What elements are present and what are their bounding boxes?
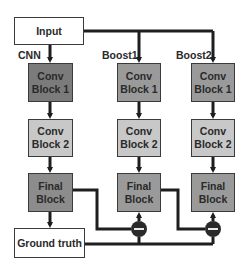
block-line2: Block <box>125 193 154 206</box>
cnn-column-label: CNN <box>18 49 41 61</box>
boost2-final-block: Final Block <box>191 173 235 212</box>
cnn-conv-block-2: Conv Block 2 <box>28 119 73 157</box>
boost2-conv-block-2: Conv Block 2 <box>191 119 235 157</box>
block-line1: Final <box>36 180 65 193</box>
block-line2: Block 1 <box>194 83 231 96</box>
block-line2: Block <box>36 193 65 206</box>
boost1-conv-block-1: Conv Block 1 <box>117 63 161 102</box>
minus-operator-boost2 <box>205 221 221 237</box>
block-line1: Conv <box>120 125 157 138</box>
block-line1: Conv <box>194 70 231 83</box>
minus-operator-boost1 <box>131 221 147 237</box>
input-label: Input <box>36 25 62 38</box>
block-line2: Block 2 <box>32 138 69 151</box>
boost1-final-block: Final Block <box>117 173 161 212</box>
block-line1: Conv <box>32 125 69 138</box>
cnn-final-block: Final Block <box>28 173 73 212</box>
block-line2: Block 2 <box>120 138 157 151</box>
boost2-column-label: Boost2 <box>176 49 212 61</box>
boost2-conv-block-1: Conv Block 1 <box>191 63 235 102</box>
block-line2: Block 1 <box>120 83 157 96</box>
block-line1: Final <box>125 180 154 193</box>
cnn-conv-block-1: Conv Block 1 <box>28 63 73 102</box>
input-box: Input <box>14 17 84 45</box>
block-line1: Conv <box>194 125 231 138</box>
block-line2: Block 1 <box>32 83 69 96</box>
block-line2: Block 2 <box>194 138 231 151</box>
boost1-column-label: Boost1 <box>102 49 138 61</box>
boosting-diagram: Input CNN Boost1 Boost2 Conv Block 1 Con… <box>0 0 248 271</box>
block-line1: Conv <box>120 70 157 83</box>
ground-truth-box: Ground truth <box>14 228 85 258</box>
block-line2: Block <box>199 193 228 206</box>
boost1-conv-block-2: Conv Block 2 <box>117 119 161 157</box>
ground-truth-label: Ground truth <box>17 237 82 250</box>
block-line1: Final <box>199 180 228 193</box>
block-line1: Conv <box>32 70 69 83</box>
